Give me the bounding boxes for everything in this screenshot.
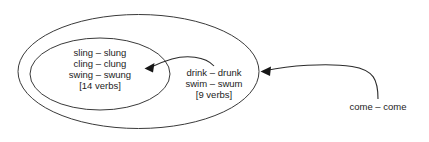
inner-line-1: sling – slung (42, 47, 158, 58)
inner-verb-count: [14 verbs] (42, 80, 158, 91)
inner-line-3: swing – swung (42, 69, 158, 80)
inner-line-2: cling – clung (42, 58, 158, 69)
middle-line-1: drink – drunk (172, 67, 256, 78)
outside-line-1: come – come (334, 101, 422, 112)
arrow-outside-to-outer-line (266, 65, 378, 99)
middle-verb-count: [9 verbs] (172, 89, 256, 100)
inner-ellipse-label: sling – slung cling – clung swing – swun… (42, 47, 158, 91)
arrow-outside-to-outer-head (261, 67, 272, 77)
outer-ellipse-label: drink – drunk swim – swum [9 verbs] (172, 67, 256, 100)
diagram-canvas: sling – slung cling – clung swing – swun… (0, 0, 429, 142)
outside-item-label: come – come (334, 101, 422, 112)
middle-line-2: swim – swum (172, 78, 256, 89)
